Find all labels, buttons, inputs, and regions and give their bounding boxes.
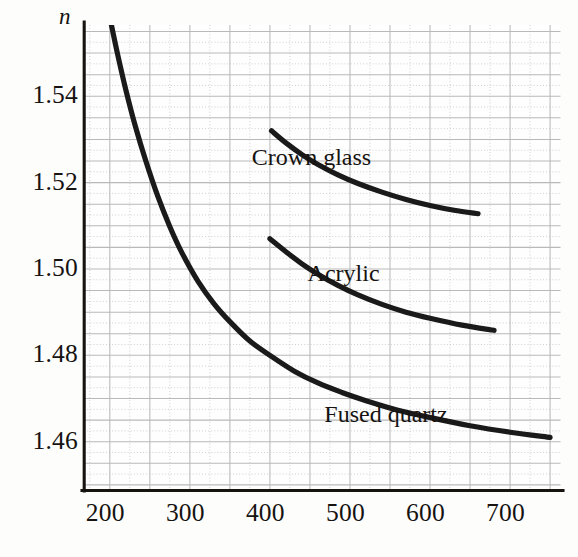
chart-plot-area xyxy=(0,0,578,557)
x-tick-label: 500 xyxy=(326,498,365,528)
y-axis-title: n xyxy=(59,4,71,30)
y-tick-label: 1.48 xyxy=(33,339,78,369)
refractive-index-chart: 1.461.481.501.521.54 200300400500600700 … xyxy=(0,0,578,557)
x-tick-label: 600 xyxy=(406,498,445,528)
y-tick-label: 1.46 xyxy=(33,426,78,456)
x-tick-label: 700 xyxy=(486,498,525,528)
series-label-crown-glass: Crown glass xyxy=(252,144,371,171)
series-label-acrylic: Acrylic xyxy=(308,260,380,287)
series-label-fused-quartz: Fused quartz xyxy=(324,401,447,428)
x-tick-label: 200 xyxy=(86,498,125,528)
x-tick-label: 300 xyxy=(166,498,205,528)
y-tick-label: 1.54 xyxy=(33,80,78,110)
y-tick-label: 1.50 xyxy=(33,253,78,283)
x-tick-label: 400 xyxy=(246,498,285,528)
y-tick-label: 1.52 xyxy=(33,167,78,197)
